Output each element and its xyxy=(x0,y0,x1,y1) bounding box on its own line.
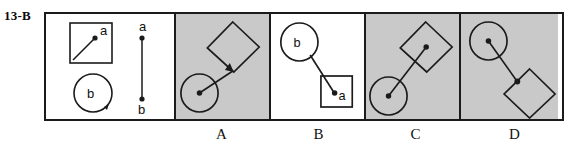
option-b-connector xyxy=(310,55,333,92)
option-b-arrowhead xyxy=(332,90,337,96)
option-d-connector xyxy=(488,41,516,81)
stimulus-segment-bottom-label: b xyxy=(138,102,145,117)
item-number-label: 13-B xyxy=(4,8,31,24)
panel-strip: a b a b xyxy=(44,12,564,121)
option-a-drawing xyxy=(176,14,269,119)
option-d-square xyxy=(504,69,555,118)
stimulus-circle-label: b xyxy=(87,86,94,101)
option-d-connector-endpoint-dot xyxy=(514,79,520,85)
stimulus-segment-bottom-dot xyxy=(139,96,144,101)
option-letter-a: A xyxy=(174,126,269,143)
stimulus-square-arrow-head xyxy=(92,35,97,40)
stimulus-square-label: a xyxy=(100,23,108,38)
option-letter-b: B xyxy=(271,126,366,143)
stimulus-drawing: a b a b xyxy=(46,14,174,119)
option-b-drawing: b a xyxy=(271,14,364,119)
stimulus-circle-arrowhead xyxy=(104,104,109,110)
option-letter-d: D xyxy=(465,126,564,143)
option-panel-a[interactable] xyxy=(174,14,269,119)
stimulus-segment-top-label: a xyxy=(139,19,147,34)
option-letter-c: C xyxy=(368,126,463,143)
stimulus-square-arrow-shaft xyxy=(73,39,94,60)
option-c-drawing xyxy=(366,14,459,119)
option-b-circle-label: b xyxy=(294,35,301,50)
option-panel-d[interactable] xyxy=(459,14,558,119)
option-panel-c[interactable] xyxy=(364,14,459,119)
panel-stimulus: a b a b xyxy=(46,14,174,119)
option-panel-b[interactable]: b a xyxy=(269,14,364,119)
figure-root: 13-B a b a b xyxy=(0,0,584,160)
option-a-square xyxy=(207,22,259,72)
option-b-square-label: a xyxy=(339,88,347,103)
option-d-drawing xyxy=(461,14,558,119)
